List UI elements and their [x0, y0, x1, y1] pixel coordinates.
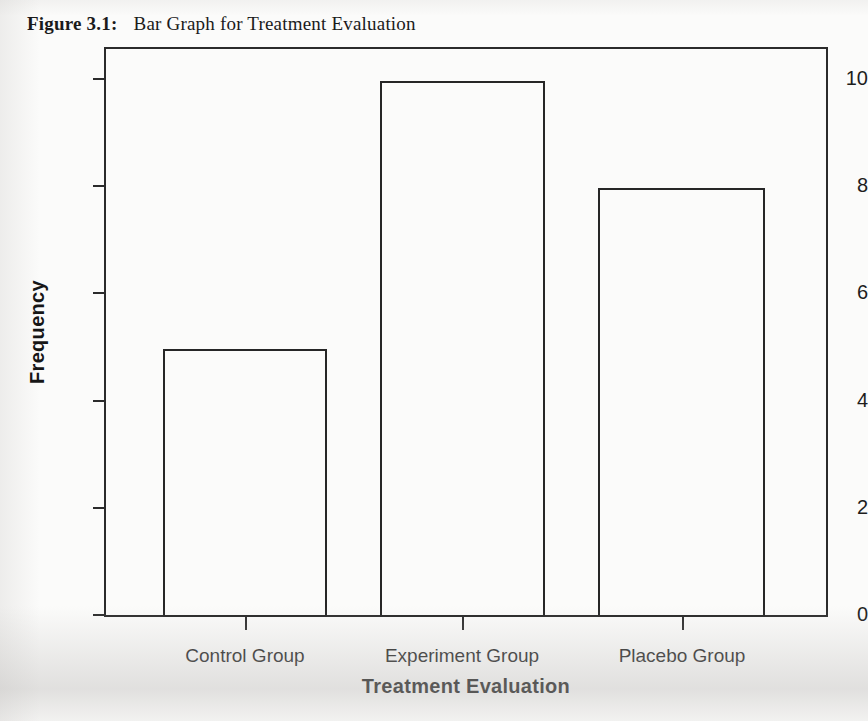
x-tick-mark-control-group [245, 617, 247, 630]
x-tick-label-experiment-group: Experiment Group [385, 645, 539, 667]
bar-experiment-group [380, 81, 545, 617]
bar-chart: 0 2 4 6 8 10 Frequency Control Group Exp… [0, 0, 868, 721]
y-tick-label-0: 0 [784, 603, 868, 626]
x-axis-title: Treatment Evaluation [362, 675, 570, 698]
x-tick-mark-experiment-group [462, 617, 464, 630]
y-tick-mark-4 [93, 400, 104, 402]
y-tick-label-6: 6 [784, 281, 868, 304]
y-tick-mark-10 [93, 78, 104, 80]
scanned-page: Figure 3.1:Bar Graph for Treatment Evalu… [0, 0, 868, 721]
x-tick-label-control-group: Control Group [185, 645, 304, 667]
y-tick-label-4: 4 [784, 389, 868, 412]
bar-control-group [163, 349, 327, 617]
y-tick-mark-2 [93, 507, 104, 509]
x-tick-mark-placebo-group [682, 617, 684, 630]
y-tick-label-2: 2 [784, 496, 868, 519]
x-tick-label-placebo-group: Placebo Group [619, 645, 746, 667]
y-tick-label-8: 8 [784, 174, 868, 197]
y-tick-label-10: 10 [784, 67, 868, 90]
y-tick-mark-6 [93, 292, 104, 294]
bar-placebo-group [598, 188, 765, 617]
y-tick-mark-0 [93, 614, 104, 616]
y-axis-title: Frequency [26, 280, 49, 384]
y-tick-mark-8 [93, 185, 104, 187]
